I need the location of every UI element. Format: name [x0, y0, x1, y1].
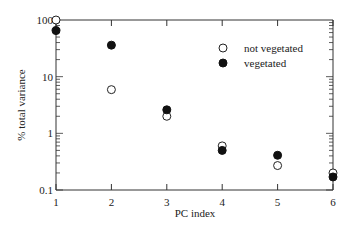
- y-axis-label: % total variance: [15, 69, 27, 141]
- x-axis-label: PC index: [175, 207, 216, 219]
- vegetated-point: [107, 41, 115, 49]
- legend-label-not-vegetated: not vegetated: [244, 42, 303, 54]
- x-tick-label: 3: [164, 196, 170, 208]
- x-tick-label: 1: [53, 196, 59, 208]
- vegetated-point: [218, 146, 226, 154]
- vegetated-point: [52, 27, 60, 35]
- not-vegetated-point: [52, 16, 60, 24]
- x-tick-label: 2: [109, 196, 115, 208]
- x-tick-label: 5: [275, 196, 281, 208]
- legend-filled-circle-icon: [219, 59, 227, 67]
- y-tick-label: 1: [48, 127, 54, 139]
- not-vegetated-point: [274, 162, 282, 170]
- scatter-chart: 1234560.1110100 not vegetated vegetated …: [0, 0, 353, 235]
- not-vegetated-point: [107, 86, 115, 94]
- legend-open-circle-icon: [219, 44, 227, 52]
- x-tick-label: 4: [219, 196, 225, 208]
- x-tick-label: 6: [330, 196, 336, 208]
- legend-label-vegetated: vegetated: [244, 57, 287, 69]
- vegetated-point: [163, 106, 171, 114]
- y-tick-label: 100: [37, 14, 54, 26]
- legend: not vegetated vegetated: [219, 42, 303, 69]
- vegetated-point: [329, 173, 337, 181]
- vegetated-point: [274, 151, 282, 159]
- y-tick-label: 10: [42, 71, 54, 83]
- data-points: [52, 16, 337, 181]
- y-tick-label: 0.1: [39, 184, 53, 196]
